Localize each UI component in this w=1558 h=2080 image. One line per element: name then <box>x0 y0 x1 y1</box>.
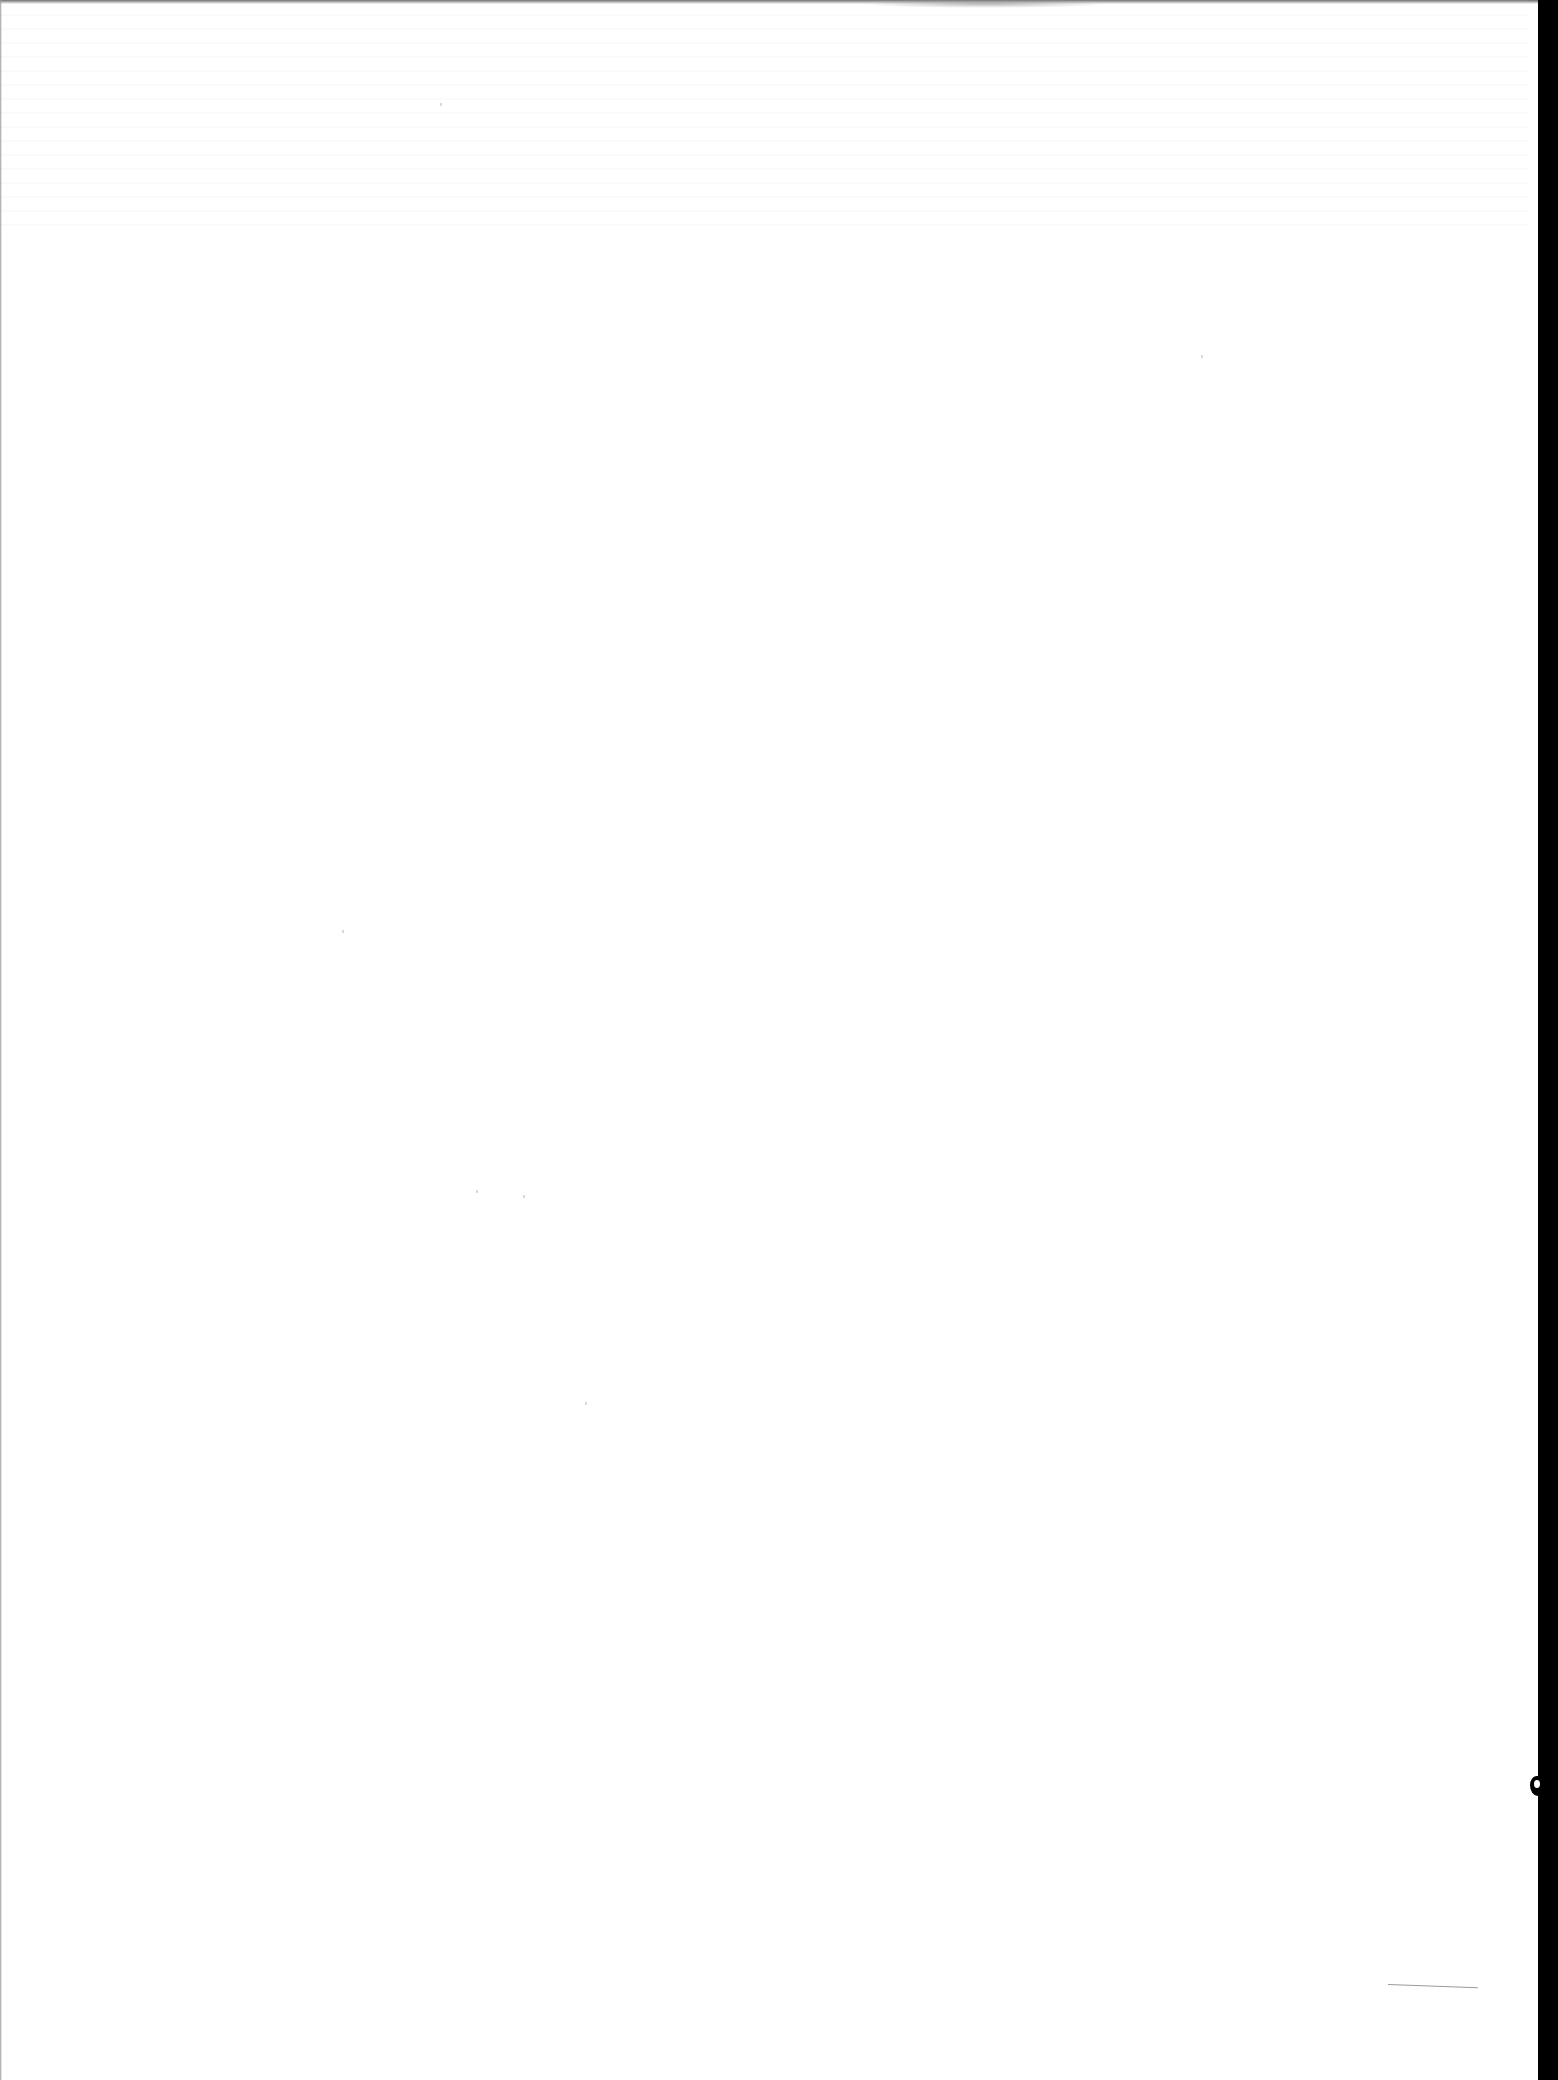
paper-speck <box>440 103 442 106</box>
left-page-edge <box>0 0 2 2080</box>
scanner-border-right <box>1538 0 1558 2080</box>
paper-speck <box>476 1190 478 1193</box>
scanner-edge-blot-highlight <box>1534 1780 1540 1788</box>
paper-speck <box>585 1402 587 1405</box>
paper-speck <box>1201 355 1203 358</box>
paper-speck <box>523 1195 525 1198</box>
paper-speck <box>342 930 344 933</box>
blank-page <box>0 0 1538 2080</box>
pencil-mark <box>1388 1984 1478 1988</box>
bleed-through-texture <box>0 0 1528 230</box>
